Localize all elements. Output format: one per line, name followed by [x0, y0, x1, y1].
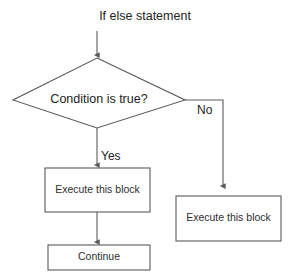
execute-false-label: Execute this block — [176, 212, 281, 223]
edge-label-yes: Yes — [101, 150, 121, 162]
decision-label: Condition is true? — [13, 93, 185, 106]
continue-label: Continue — [48, 251, 150, 262]
edge-label-no: No — [197, 104, 212, 116]
flowchart-connectors-layer — [0, 0, 290, 274]
diagram-title: If else statement — [0, 10, 290, 23]
execute-true-label: Execute this block — [45, 184, 150, 195]
flowchart-diagram: If else statement Condition is true? Yes… — [0, 0, 290, 274]
